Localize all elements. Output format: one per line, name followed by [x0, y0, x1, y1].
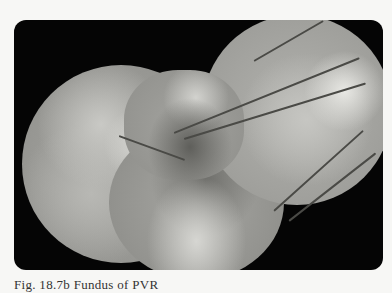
figure-caption: Fig. 18.7b Fundus of PVR	[14, 277, 158, 293]
fundus-montage-panel	[14, 20, 383, 270]
